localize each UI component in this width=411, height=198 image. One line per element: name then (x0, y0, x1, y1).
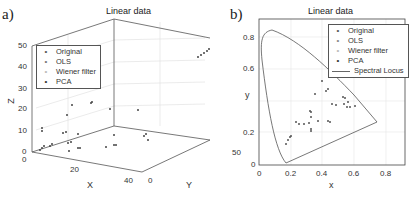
z-axis-label: Z (6, 98, 16, 104)
y-tick: 50 (232, 148, 241, 157)
x-tick: 0 (257, 169, 261, 178)
x-tick: 0.2 (285, 169, 296, 178)
2d-points (285, 80, 356, 145)
z-tick: 10 (18, 126, 27, 135)
z-tick: 50 (18, 41, 27, 50)
x-tick: 0.4 (316, 169, 327, 178)
3d-axes (32, 19, 210, 172)
z-tick: 20 (18, 104, 27, 113)
x-axis-label-b: x (329, 180, 334, 190)
y-axis-label-b: y (245, 90, 250, 100)
legend-a: •Original •OLS •Wiener filter •PCA (36, 45, 101, 89)
legend-item: Spectral Locus (354, 66, 404, 76)
legend-item: PCA (56, 77, 71, 87)
z-tick: 40 (18, 62, 27, 71)
legend-item: Wiener filter (56, 67, 96, 77)
legend-item: Original (56, 47, 82, 57)
x-tick: 0.8 (380, 169, 391, 178)
x-tick: 40 (124, 176, 133, 185)
legend-b: •Original •OLS •Wiener filter •PCA Spect… (328, 24, 409, 78)
y-axis-label: Y (186, 180, 192, 190)
y-tick: 0 (251, 160, 255, 169)
x-tick: 0.6 (348, 169, 359, 178)
z-tick: 30 (18, 84, 27, 93)
x-tick: 20 (70, 165, 79, 174)
x-tick: 0 (22, 155, 26, 164)
legend-item: OLS (56, 57, 71, 67)
y-tick: 0.6 (243, 64, 254, 73)
y-tick: 0.2 (243, 128, 254, 137)
y-tick: 0.8 (243, 33, 254, 42)
legend-item: PCA (348, 56, 363, 66)
x-axis-label: X (87, 180, 93, 190)
y-tick: 0 (148, 176, 152, 185)
legend-item: OLS (348, 36, 363, 46)
legend-item: Original (348, 26, 374, 36)
legend-item: Wiener filter (348, 46, 388, 56)
